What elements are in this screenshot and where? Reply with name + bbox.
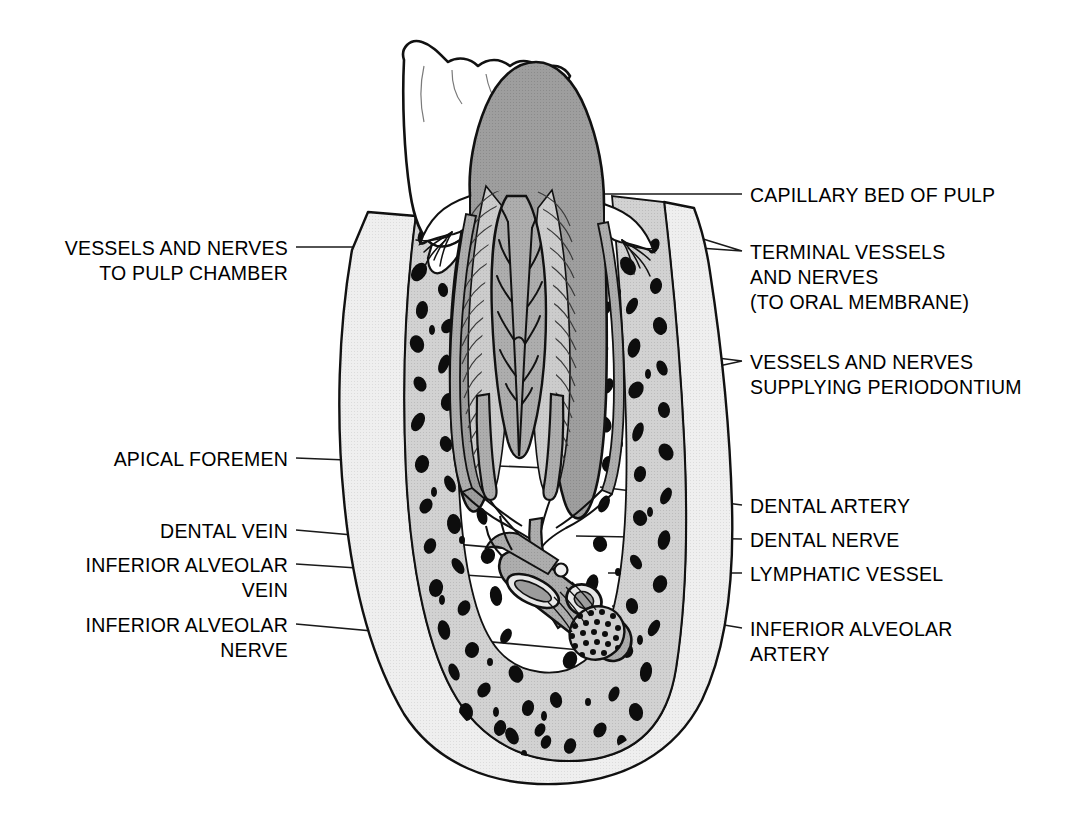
label-apical-foramen: APICAL FOREMEN: [0, 447, 288, 472]
label-vessels-and-nerves-supplying-periodontium: VESSELS AND NERVES SUPPLYING PERIODONTIU…: [750, 350, 1069, 400]
label-terminal-vessels-and-nerves: TERMINAL VESSELS AND NERVES (TO ORAL MEM…: [750, 240, 1069, 315]
label-lymphatic-vessel: LYMPHATIC VESSEL: [750, 562, 1069, 587]
label-capillary-bed-of-pulp: CAPILLARY BED OF PULP: [750, 183, 1069, 208]
tooth-anatomy-illustration: [0, 0, 1069, 814]
label-dental-nerve: DENTAL NERVE: [750, 528, 1069, 553]
lymphatic-vessel-lumen: [555, 564, 568, 577]
label-dental-artery: DENTAL ARTERY: [750, 494, 1069, 519]
label-inferior-alveolar-nerve: INFERIOR ALVEOLAR NERVE: [0, 613, 288, 663]
label-inferior-alveolar-vein: INFERIOR ALVEOLAR VEIN: [0, 553, 288, 603]
figure-canvas: VESSELS AND NERVES TO PULP CHAMBER APICA…: [0, 0, 1069, 814]
label-vessels-and-nerves-to-pulp-chamber: VESSELS AND NERVES TO PULP CHAMBER: [0, 236, 288, 286]
label-dental-vein: DENTAL VEIN: [0, 519, 288, 544]
label-inferior-alveolar-artery: INFERIOR ALVEOLAR ARTERY: [750, 617, 1069, 667]
